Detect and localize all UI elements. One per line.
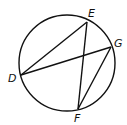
label-G: G: [114, 37, 123, 50]
chord-DE: [21, 22, 87, 75]
label-E: E: [88, 7, 95, 20]
circle: [19, 15, 115, 111]
chord-DG: [21, 47, 111, 75]
label-F: F: [74, 112, 81, 125]
circle-diagram: D E G F: [0, 0, 127, 125]
label-D: D: [8, 72, 16, 85]
